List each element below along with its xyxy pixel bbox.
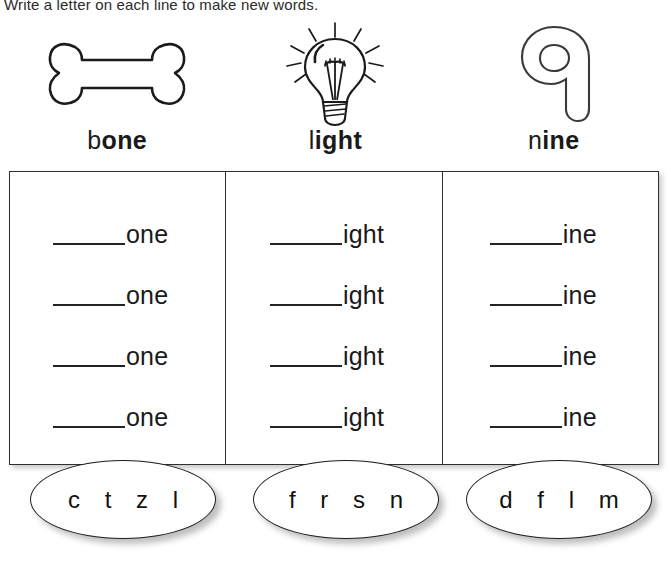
word-onset: b <box>87 126 101 154</box>
rime-suffix: ight <box>343 281 384 309</box>
word-rime: one <box>101 126 147 154</box>
light-bulb-icon <box>269 22 401 126</box>
blank-line-row[interactable]: ine <box>443 326 658 387</box>
instruction-text: Write a letter on each line to make new … <box>4 0 318 13</box>
rime-suffix: one <box>126 403 168 431</box>
write-in-blank[interactable] <box>490 304 562 306</box>
blank-line-row[interactable]: ine <box>443 204 658 265</box>
blank-line-row[interactable]: ine <box>443 265 658 326</box>
blank-line-row[interactable]: one <box>10 387 225 448</box>
word-onset: n <box>528 126 542 154</box>
write-in-blank[interactable] <box>270 243 342 245</box>
write-in-blank[interactable] <box>270 426 342 428</box>
rime-suffix: ight <box>343 220 384 248</box>
write-in-blank[interactable] <box>490 243 562 245</box>
letter-bank-oval-ine: d f l m <box>466 460 652 539</box>
write-in-blank[interactable] <box>53 243 125 245</box>
blank-line-row[interactable]: ight <box>226 265 441 326</box>
blank-line-row[interactable]: ight <box>226 204 441 265</box>
worksheet-grid: one one one one ight ight ight ight ine … <box>9 171 659 465</box>
header-column-bone: bone <box>8 22 226 170</box>
numeral-nine-outline-icon <box>515 22 593 126</box>
letter-bank-letters: c t z l <box>59 486 187 514</box>
letter-bank-letters: f r s n <box>280 486 412 514</box>
rime-suffix: ight <box>343 403 384 431</box>
rime-suffix: ine <box>563 342 597 370</box>
write-in-blank[interactable] <box>53 426 125 428</box>
blank-line-row[interactable]: one <box>10 265 225 326</box>
rime-suffix: one <box>126 220 168 248</box>
rime-suffix: ine <box>563 220 597 248</box>
rime-suffix: one <box>126 281 168 309</box>
write-in-blank[interactable] <box>490 426 562 428</box>
write-in-blank[interactable] <box>53 365 125 367</box>
word-rime: ine <box>542 126 579 154</box>
rime-suffix: ight <box>343 342 384 370</box>
header-column-nine: nine <box>445 22 663 170</box>
rime-suffix: ine <box>563 281 597 309</box>
letter-bank-oval-one: c t z l <box>30 460 216 539</box>
rime-suffix: one <box>126 342 168 370</box>
word-label-nine: nine <box>528 128 580 153</box>
write-in-blank[interactable] <box>490 365 562 367</box>
write-in-blank[interactable] <box>270 304 342 306</box>
header-column-light: light <box>226 22 444 170</box>
bone-outline-icon <box>47 22 187 126</box>
word-label-bone: bone <box>87 128 147 153</box>
write-in-blank[interactable] <box>270 365 342 367</box>
grid-column-ine: ine ine ine ine <box>442 172 658 464</box>
blank-line-row[interactable]: ight <box>226 387 441 448</box>
letter-bank-oval-ight: f r s n <box>253 460 439 539</box>
letter-bank-letters: d f l m <box>490 486 627 514</box>
blank-line-row[interactable]: ine <box>443 387 658 448</box>
grid-column-one: one one one one <box>10 172 225 464</box>
word-label-light: light <box>309 128 362 153</box>
blank-line-row[interactable]: one <box>10 204 225 265</box>
word-rime: ight <box>315 126 362 154</box>
rime-suffix: ine <box>563 403 597 431</box>
write-in-blank[interactable] <box>53 304 125 306</box>
blank-line-row[interactable]: ight <box>226 326 441 387</box>
blank-line-row[interactable]: one <box>10 326 225 387</box>
header-row: bone <box>8 22 663 170</box>
grid-column-ight: ight ight ight ight <box>225 172 441 464</box>
